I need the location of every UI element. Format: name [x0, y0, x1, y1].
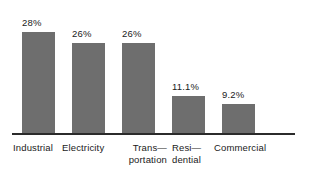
category-label-transportation: Trans— portation: [116, 142, 167, 166]
bar-commercial[interactable]: [222, 104, 255, 134]
x-axis-baseline: [12, 133, 295, 135]
bar-residential[interactable]: [172, 96, 205, 134]
category-label-residential: Resi— dential: [172, 142, 212, 166]
bar-value-industrial: 28%: [22, 17, 66, 28]
category-label-commercial: Commercial: [214, 142, 266, 154]
bar-group-industrial: 28%: [22, 0, 55, 134]
bar-value-electricity: 26%: [72, 28, 116, 39]
category-labels: Industrial Electricity Trans— portation …: [0, 142, 309, 178]
bar-value-commercial: 9.2%: [222, 89, 266, 100]
category-label-residential-line2: dential: [172, 154, 212, 166]
plot-area: 28% 26% 26% 11.1% 9.2%: [0, 0, 309, 134]
category-label-electricity: Electricity: [62, 142, 104, 154]
bar-group-transportation: 26%: [122, 0, 155, 134]
bar-group-commercial: 9.2%: [222, 0, 255, 134]
category-label-industrial: Industrial: [13, 142, 53, 154]
bar-chart: 28% 26% 26% 11.1% 9.2% Industrial: [0, 0, 309, 178]
category-label-commercial-line1: Commercial: [214, 142, 266, 153]
category-label-transportation-line1: Trans—: [133, 142, 167, 153]
bar-group-electricity: 26%: [72, 0, 105, 134]
bar-value-transportation: 26%: [122, 28, 166, 39]
bar-industrial[interactable]: [22, 32, 55, 134]
bar-value-residential: 11.1%: [172, 81, 216, 92]
bar-electricity[interactable]: [72, 43, 105, 134]
category-label-electricity-line1: Electricity: [62, 142, 104, 153]
category-label-transportation-line2: portation: [116, 154, 167, 166]
bar-group-residential: 11.1%: [172, 0, 205, 134]
bar-transportation[interactable]: [122, 43, 155, 134]
category-label-industrial-line1: Industrial: [13, 142, 53, 153]
category-label-residential-line1: Resi—: [172, 142, 201, 153]
